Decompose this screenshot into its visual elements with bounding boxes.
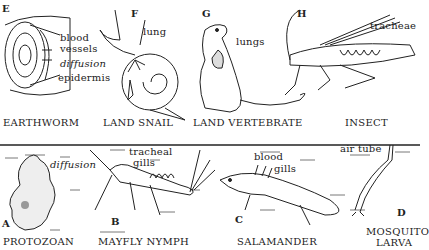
label-epidermis: epidermis [58,72,110,83]
caption-mayfly-nymph: MAYFLY NYMPH [98,236,189,247]
caption-insect: INSECT [345,117,388,128]
caption-larva: LARVA [376,237,412,248]
figure-letter-c: C [235,214,243,225]
label-lungs: lungs [236,36,265,47]
label-diffusion-protozoan: diffusion [50,159,96,170]
protozoan-drawing [10,155,55,230]
mosquito-larva-drawing [352,145,393,216]
caption-land-vertebrate: LAND VERTEBRATE [193,117,303,128]
label-air-tube: air tube [340,143,382,154]
label-diffusion-earthworm: diffusion [60,58,106,69]
figure-letter-b: B [111,216,119,227]
label-blood-salamander: blood [254,151,283,162]
caption-salamander: SALAMANDER [237,236,317,247]
figure-letter-f: F [131,8,138,19]
caption-mosquito: MOSQUITO [366,226,429,237]
label-tracheae: tracheae [370,20,416,31]
figure-letter-g: G [202,8,211,19]
caption-earthworm: EARTHWORM [3,117,79,128]
label-lung: lung [143,26,166,37]
caption-land-snail: LAND SNAIL [103,117,173,128]
label-tracheal: tracheal [129,146,172,157]
figure-letter-d: D [397,207,406,218]
label-gills-mayfly: gills [133,157,155,168]
label-blood: blood [60,32,89,43]
label-vessels: vessels [60,43,97,54]
figure-letter-e: E [2,3,10,14]
figure-letter-h: H [297,8,306,19]
caption-protozoan: PROTOZOAN [3,236,74,247]
earthworm-drawing [5,16,70,95]
figure-letter-a: A [2,218,10,229]
label-gills-salamander: gills [274,163,296,174]
